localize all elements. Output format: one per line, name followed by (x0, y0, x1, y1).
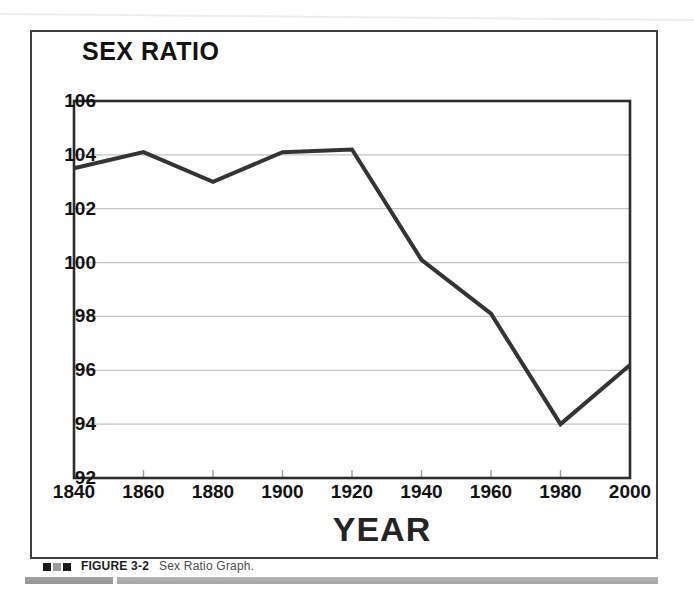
caption-marker-squares (43, 557, 73, 575)
caption-square-icon (43, 563, 51, 571)
y-tick-label: 104 (48, 144, 96, 166)
caption-square-icon (53, 563, 61, 571)
x-tick-label: 1860 (112, 481, 176, 503)
bottom-bar-right-segment (117, 577, 658, 584)
figure-title: Sex Ratio Graph. (159, 559, 254, 573)
y-tick-label: 102 (48, 198, 96, 220)
x-axis-title: YEAR (272, 510, 492, 549)
x-tick-label: 2000 (598, 481, 662, 503)
figure-frame: SEX RATIO YEAR 1061041021009896949218401… (30, 30, 658, 559)
x-tick-label: 1940 (390, 481, 454, 503)
figure-caption: FIGURE 3-2 Sex Ratio Graph. (43, 558, 254, 573)
y-tick-label: 94 (48, 413, 96, 435)
chart-title: SEX RATIO (82, 37, 219, 66)
x-tick-label: 1960 (459, 481, 523, 503)
x-tick-label: 1840 (42, 481, 106, 503)
caption-square-icon (63, 563, 71, 571)
data-line-series (74, 149, 630, 424)
figure-label: FIGURE 3-2 (81, 559, 149, 573)
y-tick-label: 98 (48, 305, 96, 327)
x-tick-label: 1980 (529, 481, 593, 503)
y-tick-label: 96 (48, 359, 96, 381)
bottom-bar-left-segment (25, 577, 113, 584)
page-edge-artifact (0, 13, 694, 21)
plot-svg (66, 98, 638, 486)
y-tick-label: 106 (48, 90, 96, 112)
x-tick-label: 1880 (181, 481, 245, 503)
y-tick-label: 100 (48, 252, 96, 274)
x-tick-label: 1920 (320, 481, 384, 503)
x-tick-label: 1900 (251, 481, 315, 503)
